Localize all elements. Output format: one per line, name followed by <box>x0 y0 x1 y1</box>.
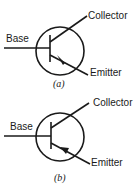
emitter-label: Emitter <box>90 67 122 78</box>
transistor-symbols-diagram: Base Collector Emitter (a) Base Collecto… <box>0 0 138 186</box>
transistor-symbol-b: Base Collector Emitter (b) <box>4 97 133 184</box>
collector-label: Collector <box>88 10 128 21</box>
transistor-symbol-a: Base Collector Emitter (a) <box>4 10 128 90</box>
caption-b: (b) <box>54 172 66 184</box>
collector-lead <box>51 103 89 128</box>
collector-lead <box>50 16 87 42</box>
base-label: Base <box>6 33 29 44</box>
emitter-label: Emitter <box>91 157 123 168</box>
transistor-envelope-circle <box>36 113 84 161</box>
emitter-arrow-inward-icon <box>60 147 69 154</box>
base-label: Base <box>10 121 33 132</box>
collector-label: Collector <box>93 97 133 108</box>
caption-a: (a) <box>53 78 65 90</box>
